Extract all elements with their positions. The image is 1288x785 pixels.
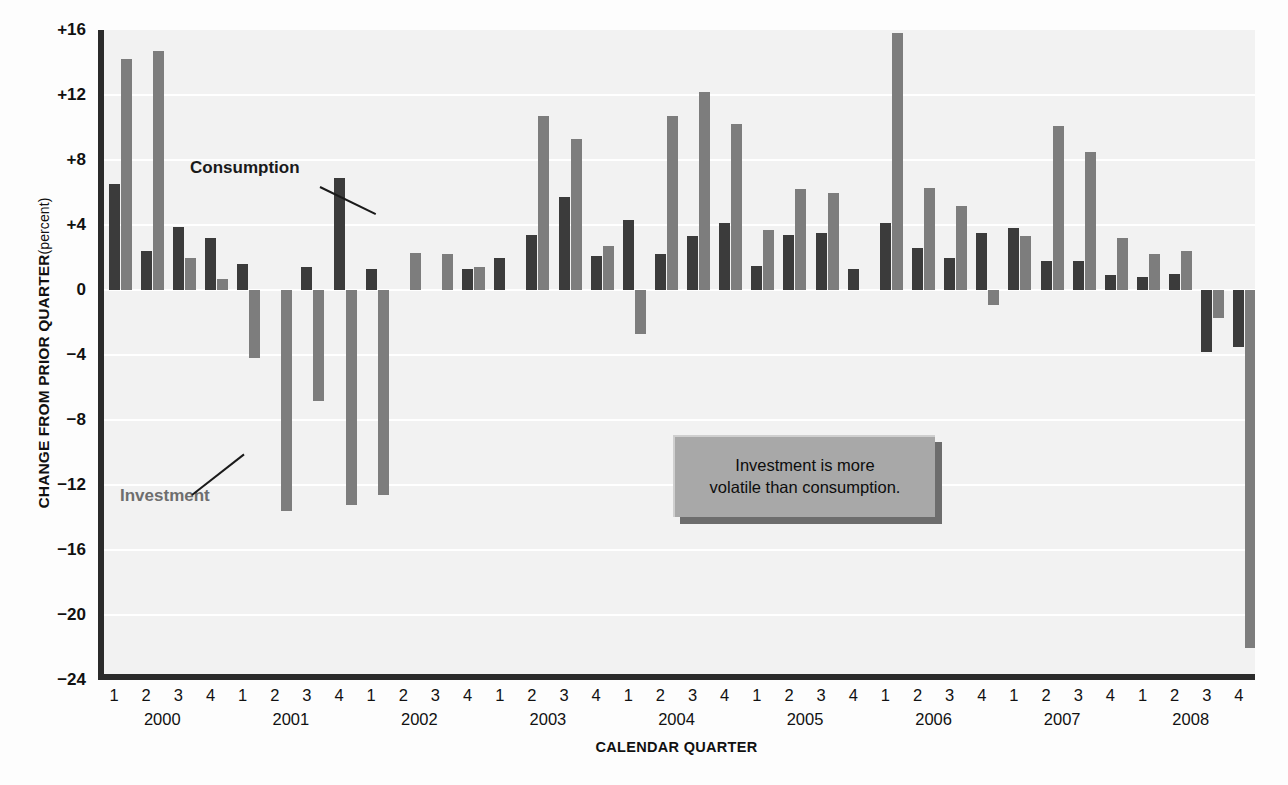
y-tick-label: −8 — [32, 410, 86, 430]
x-tick-quarter: 2 — [1033, 686, 1059, 705]
bar-investment — [571, 139, 582, 290]
x-tick-quarter: 2 — [519, 686, 545, 705]
y-tick-label: −4 — [32, 345, 86, 365]
bar-investment — [892, 33, 903, 290]
x-tick-quarter: 1 — [101, 686, 127, 705]
bar-investment — [217, 279, 228, 290]
bar-consumption — [912, 248, 923, 290]
bar-consumption — [719, 223, 730, 290]
x-tick-quarter: 2 — [390, 686, 416, 705]
bar-consumption — [494, 258, 505, 291]
bar-investment — [474, 267, 485, 290]
plot-area — [98, 30, 1255, 680]
bar-investment — [763, 230, 774, 290]
x-tick-quarter: 1 — [1130, 686, 1156, 705]
gridline--16 — [104, 549, 1255, 551]
x-axis-title-wrap: CALENDAR QUARTER — [98, 738, 1255, 756]
x-tick-quarter: 2 — [647, 686, 673, 705]
bar-investment — [1053, 126, 1064, 290]
y-tick-label: +4 — [32, 215, 86, 235]
y-tick-label: −20 — [32, 605, 86, 625]
x-tick-quarter: 1 — [872, 686, 898, 705]
y-tick-label: +8 — [32, 150, 86, 170]
x-tick-quarter: 4 — [1097, 686, 1123, 705]
bar-consumption — [816, 233, 827, 290]
x-tick-quarter: 4 — [1226, 686, 1252, 705]
gridline--8 — [104, 419, 1255, 421]
bar-consumption — [1105, 275, 1116, 290]
bar-consumption — [944, 258, 955, 291]
bar-consumption — [237, 264, 248, 290]
bar-investment — [1245, 290, 1255, 648]
x-tick-year: 2006 — [894, 710, 974, 729]
bar-consumption — [1201, 290, 1212, 352]
callout-text: Investment is more volatile than consump… — [702, 455, 909, 499]
gridline--4 — [104, 354, 1255, 356]
bar-investment — [442, 254, 453, 290]
bar-consumption — [687, 236, 698, 290]
x-tick-quarter: 3 — [551, 686, 577, 705]
bar-consumption — [1233, 290, 1244, 347]
bar-investment — [185, 258, 196, 291]
x-tick-quarter: 4 — [969, 686, 995, 705]
x-tick-quarter: 3 — [937, 686, 963, 705]
bar-investment — [538, 116, 549, 290]
x-tick-quarter: 2 — [1162, 686, 1188, 705]
bar-investment — [378, 290, 389, 495]
x-tick-year: 2000 — [122, 710, 202, 729]
x-tick-quarter: 1 — [1001, 686, 1027, 705]
y-tick-label: −12 — [32, 475, 86, 495]
x-tick-quarter: 3 — [1065, 686, 1091, 705]
x-tick-quarter: 2 — [776, 686, 802, 705]
y-tick-label: +16 — [32, 20, 86, 40]
x-tick-quarter: 3 — [294, 686, 320, 705]
bar-investment — [1085, 152, 1096, 290]
bar-consumption — [783, 235, 794, 290]
bar-consumption — [205, 238, 216, 290]
bar-consumption — [366, 269, 377, 290]
bar-consumption — [301, 267, 312, 290]
chart-page: CHANGE FROM PRIOR QUARTER(percent) +16+1… — [0, 0, 1288, 785]
gridline--20 — [104, 614, 1255, 616]
bar-investment — [121, 59, 132, 290]
bar-investment — [988, 290, 999, 305]
bar-investment — [1149, 254, 1160, 290]
x-axis: 1234123412341234123412341234123412342000… — [98, 686, 1255, 746]
y-tick-label: 0 — [32, 280, 86, 300]
bar-consumption — [462, 269, 473, 290]
bar-investment — [956, 206, 967, 291]
bar-investment — [924, 188, 935, 290]
x-tick-quarter: 1 — [230, 686, 256, 705]
bar-investment — [346, 290, 357, 505]
x-tick-quarter: 3 — [808, 686, 834, 705]
x-tick-quarter: 4 — [840, 686, 866, 705]
bar-consumption — [623, 220, 634, 290]
x-tick-quarter: 3 — [165, 686, 191, 705]
gridline-4 — [104, 224, 1255, 226]
y-tick-label: −16 — [32, 540, 86, 560]
x-tick-quarter: 4 — [455, 686, 481, 705]
bar-investment — [153, 51, 164, 290]
bar-investment — [1181, 251, 1192, 290]
bar-investment — [795, 189, 806, 290]
x-tick-quarter: 4 — [712, 686, 738, 705]
bar-consumption — [526, 235, 537, 290]
x-tick-quarter: 1 — [358, 686, 384, 705]
x-axis-title: CALENDAR QUARTER — [596, 739, 758, 755]
x-tick-quarter: 4 — [326, 686, 352, 705]
bar-consumption — [1169, 274, 1180, 290]
bar-consumption — [141, 251, 152, 290]
callout-line-1: Investment is more — [735, 456, 874, 474]
bar-investment — [731, 124, 742, 290]
bar-consumption — [109, 184, 120, 290]
bar-consumption — [559, 197, 570, 290]
gridline-12 — [104, 94, 1255, 96]
x-tick-year: 2002 — [379, 710, 459, 729]
bar-consumption — [1008, 228, 1019, 290]
x-tick-year: 2004 — [637, 710, 717, 729]
x-tick-quarter: 3 — [422, 686, 448, 705]
x-tick-quarter: 2 — [262, 686, 288, 705]
x-tick-year: 2005 — [765, 710, 845, 729]
bar-investment — [410, 253, 421, 290]
series-label-consumption: Consumption — [190, 158, 300, 178]
